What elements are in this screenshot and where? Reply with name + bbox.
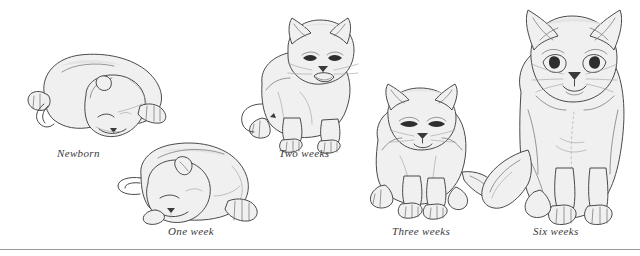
six-weeks-paw-left xyxy=(549,205,577,225)
newborn-ear xyxy=(96,76,111,91)
stage-label-two-weeks: Two weeks xyxy=(279,147,329,159)
six-weeks-tail xyxy=(482,150,532,208)
one-week-tail xyxy=(118,177,141,194)
newborn-head xyxy=(85,75,145,137)
kitten-development-figure: .ln { fill: none; stroke: #4a4a4a; strok… xyxy=(0,0,640,256)
cat-two-weeks xyxy=(242,18,358,153)
six-weeks-pupil-right xyxy=(589,56,600,68)
cat-newborn xyxy=(28,54,166,136)
stage-label-one-week: One week xyxy=(168,225,214,237)
cat-three-weeks xyxy=(370,84,497,219)
six-weeks-pupil-left xyxy=(549,56,560,68)
bottom-rule xyxy=(0,249,640,250)
cat-one-week xyxy=(118,143,257,224)
stage-label-six-weeks: Six weeks xyxy=(533,225,579,237)
six-weeks-paw-right xyxy=(585,205,613,225)
three-weeks-paw-right xyxy=(423,204,447,219)
stage-label-newborn: Newborn xyxy=(57,147,100,159)
illustration-canvas: .ln { fill: none; stroke: #4a4a4a; strok… xyxy=(0,0,640,256)
stage-label-three-weeks: Three weeks xyxy=(392,225,450,237)
one-week-hind-paw xyxy=(143,210,164,224)
cat-six-weeks xyxy=(482,10,624,225)
three-weeks-paw-left xyxy=(398,203,422,218)
one-week-front-paw xyxy=(225,199,257,221)
